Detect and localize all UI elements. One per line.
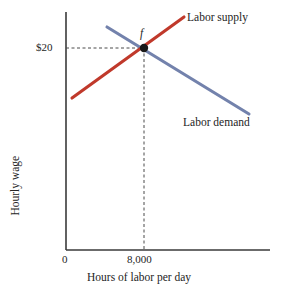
equilibrium-point-label: f — [140, 28, 143, 40]
wage-tick-label: $20 — [36, 42, 53, 53]
labor-demand-label: Labor demand — [183, 117, 250, 129]
hours-tick-label: 8,000 — [127, 254, 152, 265]
equilibrium-point-marker — [140, 44, 148, 52]
labor-supply-line — [72, 17, 184, 98]
origin-tick-label: 0 — [62, 254, 68, 265]
x-axis-title: Hours of labor per day — [87, 272, 191, 284]
labor-market-figure: Labor supply Labor demand f $20 0 8,000 … — [0, 0, 293, 290]
labor-supply-label: Labor supply — [187, 12, 248, 24]
labor-demand-line — [107, 27, 249, 114]
y-axis-title: Hourly wage — [10, 146, 22, 226]
